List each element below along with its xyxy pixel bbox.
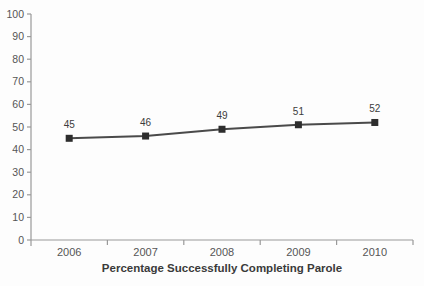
y-tick-label: 20	[12, 188, 24, 200]
x-tick-label: 2007	[133, 246, 157, 258]
y-tick-label: 80	[12, 53, 24, 65]
labels-layer: 0102030405060708090100200620072008200920…	[6, 8, 387, 259]
x-tick-label: 2006	[57, 246, 81, 258]
data-point-marker	[66, 135, 73, 142]
data-point-marker	[142, 133, 149, 140]
y-tick-label: 70	[12, 75, 24, 87]
x-axis-title: Percentage Successfully Completing Parol…	[102, 262, 342, 274]
data-point-marker	[295, 121, 302, 128]
y-tick-label: 50	[12, 121, 24, 133]
y-tick-label: 30	[12, 166, 24, 178]
series-layer	[66, 119, 379, 142]
y-tick-label: 90	[12, 30, 24, 42]
y-tick-label: 10	[12, 211, 24, 223]
data-point-marker	[371, 119, 378, 126]
y-tick-label: 100	[6, 8, 24, 20]
x-tick-label: 2010	[363, 246, 387, 258]
data-point-label: 46	[140, 117, 152, 128]
x-tick-label: 2008	[210, 246, 234, 258]
data-point-label: 45	[64, 119, 76, 130]
data-point-marker	[219, 126, 226, 133]
data-point-label: 49	[216, 110, 228, 121]
y-tick-label: 0	[18, 234, 24, 246]
data-point-label: 51	[293, 106, 305, 117]
y-tick-label: 60	[12, 98, 24, 110]
x-tick-label: 2009	[286, 246, 310, 258]
y-tick-label: 40	[12, 143, 24, 155]
data-point-label: 52	[369, 103, 381, 114]
parole-completion-chart: 0102030405060708090100200620072008200920…	[0, 0, 424, 286]
line-chart-canvas: 0102030405060708090100200620072008200920…	[0, 0, 424, 286]
